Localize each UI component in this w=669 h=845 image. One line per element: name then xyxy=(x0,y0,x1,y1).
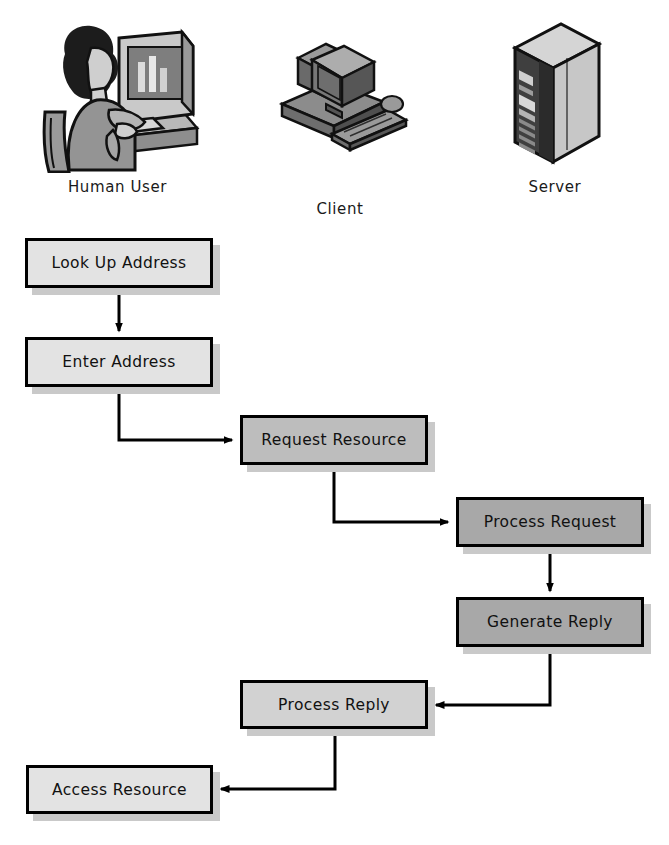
actor-label-human-user: Human User xyxy=(35,178,200,196)
node-label: Process Request xyxy=(484,513,617,531)
node-label: Access Resource xyxy=(52,781,187,799)
node-label: Process Reply xyxy=(278,696,390,714)
edge-request-to-process xyxy=(334,465,448,522)
node-label: Generate Reply xyxy=(487,613,613,631)
diagram-canvas: Human User xyxy=(0,0,669,845)
node-process-reply[interactable]: Process Reply xyxy=(240,680,428,729)
node-label: Enter Address xyxy=(62,353,175,371)
node-generate-reply[interactable]: Generate Reply xyxy=(456,597,644,647)
node-process-request[interactable]: Process Request xyxy=(456,497,644,547)
edge-processreply-to-access xyxy=(221,729,335,789)
actor-label-server: Server xyxy=(495,178,615,196)
node-access-resource[interactable]: Access Resource xyxy=(26,765,213,814)
node-enter-address[interactable]: Enter Address xyxy=(25,337,213,387)
desktop-computer-icon xyxy=(270,40,410,155)
node-look-up-address[interactable]: Look Up Address xyxy=(25,238,213,288)
server-rack-icon xyxy=(495,18,615,173)
actor-client: Client xyxy=(270,40,410,210)
node-label: Request Resource xyxy=(261,431,406,449)
actor-human-user: Human User xyxy=(35,18,200,208)
actor-server: Server xyxy=(495,18,615,208)
edge-generate-to-processreply xyxy=(436,647,550,705)
edge-enter-to-request xyxy=(119,387,232,440)
node-request-resource[interactable]: Request Resource xyxy=(240,415,428,465)
person-at-computer-icon xyxy=(35,18,200,173)
actor-label-client: Client xyxy=(270,200,410,218)
node-label: Look Up Address xyxy=(51,254,186,272)
